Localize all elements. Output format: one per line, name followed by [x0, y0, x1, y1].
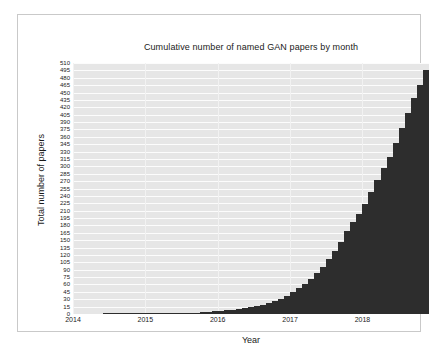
gridline: [218, 63, 219, 314]
chart-card: Cumulative number of named GAN papers by…: [17, 14, 421, 332]
gridline: [73, 166, 429, 167]
y-tick-label: 360: [60, 134, 70, 140]
y-tick-label: 75: [63, 274, 70, 280]
gridline: [73, 85, 429, 86]
gridline: [73, 63, 429, 64]
y-tick-label: 450: [60, 90, 70, 96]
chart-figure: Cumulative number of named GAN papers by…: [0, 0, 439, 348]
gridline: [73, 115, 429, 116]
y-tick-label: 255: [60, 186, 70, 192]
x-tick-label: 2017: [282, 316, 298, 323]
plot-area: [73, 63, 429, 314]
y-tick-label: 495: [60, 67, 70, 73]
gridline: [73, 122, 429, 123]
y-axis-ticks: 0153045607590105120135150165180195210225…: [18, 63, 73, 314]
gridline: [73, 174, 429, 175]
y-tick-label: 270: [60, 178, 70, 184]
gridline: [145, 63, 146, 314]
y-tick-label: 480: [60, 75, 70, 81]
y-tick-label: 210: [60, 208, 70, 214]
gridline: [73, 70, 429, 71]
gridline: [73, 137, 429, 138]
chart-title: Cumulative number of named GAN papers by…: [73, 42, 429, 52]
y-tick-label: 105: [60, 259, 70, 265]
x-axis-label: Year: [73, 335, 429, 345]
y-tick-label: 60: [63, 281, 70, 287]
y-tick-label: 195: [60, 215, 70, 221]
y-tick-label: 510: [60, 60, 70, 66]
y-tick-label: 435: [60, 97, 70, 103]
gridline: [73, 63, 74, 314]
gridline: [290, 63, 291, 314]
y-tick-label: 30: [63, 296, 70, 302]
gridline: [73, 100, 429, 101]
y-tick-label: 285: [60, 171, 70, 177]
x-tick-label: 2015: [138, 316, 154, 323]
gridline: [73, 107, 429, 108]
x-tick-label: 2018: [355, 316, 371, 323]
y-tick-label: 45: [63, 289, 70, 295]
gridline: [73, 152, 429, 153]
y-tick-label: 300: [60, 163, 70, 169]
y-tick-label: 390: [60, 119, 70, 125]
y-tick-label: 15: [63, 304, 70, 310]
y-tick-label: 420: [60, 104, 70, 110]
gridline: [73, 93, 429, 94]
gridline: [73, 144, 429, 145]
y-tick-label: 90: [63, 267, 70, 273]
gridline: [73, 129, 429, 130]
y-tick-label: 240: [60, 193, 70, 199]
y-tick-label: 315: [60, 156, 70, 162]
y-tick-label: 375: [60, 126, 70, 132]
y-tick-label: 165: [60, 230, 70, 236]
x-axis-ticks: 20142015201620172018: [73, 316, 429, 330]
gridline: [73, 78, 429, 79]
y-tick-label: 345: [60, 141, 70, 147]
x-tick-label: 2014: [65, 316, 81, 323]
y-tick-label: 330: [60, 149, 70, 155]
y-tick-label: 405: [60, 112, 70, 118]
y-tick-label: 120: [60, 252, 70, 258]
y-tick-label: 465: [60, 82, 70, 88]
x-tick-label: 2016: [210, 316, 226, 323]
y-tick-label: 135: [60, 245, 70, 251]
y-tick-label: 180: [60, 222, 70, 228]
gridline: [73, 159, 429, 160]
y-tick-label: 225: [60, 200, 70, 206]
y-tick-label: 150: [60, 237, 70, 243]
bar: [423, 70, 429, 314]
